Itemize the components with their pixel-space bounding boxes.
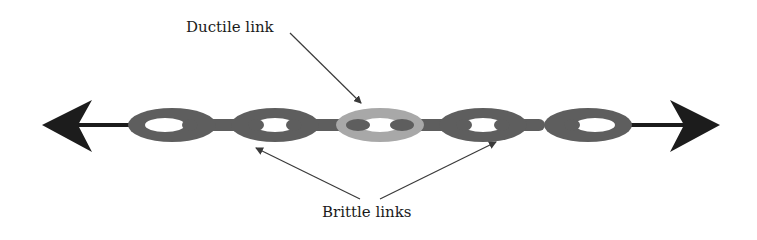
brittle-links-label: Brittle links [322, 203, 412, 221]
brittle-pointer-arrow-left [256, 148, 360, 199]
brittle-link-1 [128, 108, 216, 142]
ductile-link [336, 108, 424, 142]
left-tension-arrow [42, 100, 135, 152]
ductile-link-label: Ductile link [186, 18, 274, 36]
brittle-link-5 [544, 108, 632, 142]
ductile-pointer-arrow [290, 33, 361, 103]
brittle-link-2 [231, 108, 319, 142]
brittle-link-4 [439, 108, 527, 142]
brittle-pointer-arrow-right [380, 142, 496, 199]
right-tension-arrow [625, 100, 720, 152]
